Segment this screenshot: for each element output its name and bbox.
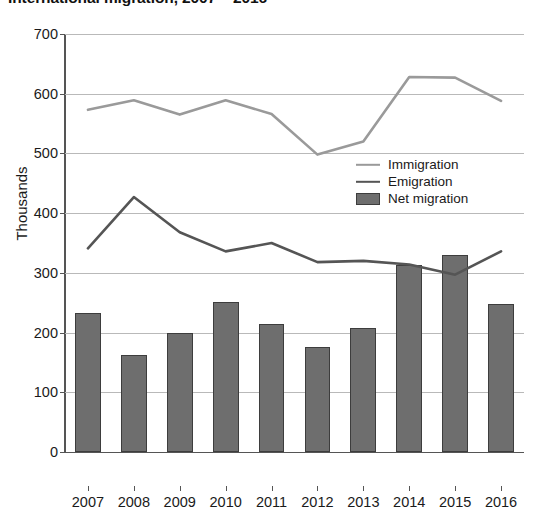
legend-label: Immigration: [388, 158, 459, 172]
x-tick-mark: [134, 486, 135, 491]
line-emigration: [88, 197, 501, 275]
y-tick-label: 500: [34, 145, 58, 161]
page-title: International migration, 2007 – 2016: [8, 0, 267, 7]
x-tick-label-2014: 2014: [393, 494, 425, 510]
x-tick-mark: [455, 486, 456, 491]
x-tick-mark: [272, 486, 273, 491]
x-tick-label-2016: 2016: [485, 494, 517, 510]
x-tick-mark: [363, 486, 364, 491]
y-tick-label: 100: [34, 384, 58, 400]
x-tick-label-2010: 2010: [210, 494, 242, 510]
x-tick-label-2007: 2007: [72, 494, 104, 510]
x-tick-label-2008: 2008: [118, 494, 150, 510]
line-swatch-icon: [356, 158, 380, 171]
x-tick-mark: [88, 486, 89, 491]
y-tick-label: 700: [34, 26, 58, 42]
x-tick-label-2013: 2013: [347, 494, 379, 510]
x-tick-label-2009: 2009: [164, 494, 196, 510]
y-tick-label: 0: [50, 444, 58, 460]
chart-legend: ImmigrationEmigrationNet migration: [356, 156, 468, 207]
y-tick-label: 300: [34, 265, 58, 281]
x-tick-mark: [226, 486, 227, 491]
y-tick-label: 600: [34, 86, 58, 102]
y-tick-label: 200: [34, 325, 58, 341]
x-tick-mark: [409, 486, 410, 491]
legend-item-net-migration[interactable]: Net migration: [356, 190, 468, 207]
x-tick-mark: [180, 486, 181, 491]
line-immigration: [88, 77, 501, 155]
plot-area: 0100200300400500600700 20072008200920102…: [65, 34, 524, 452]
box-swatch-icon: [356, 193, 380, 205]
legend-label: Net migration: [388, 192, 468, 206]
x-tick-mark: [317, 486, 318, 491]
legend-item-immigration[interactable]: Immigration: [356, 156, 468, 173]
legend-label: Emigration: [388, 175, 453, 189]
x-tick-label-2011: 2011: [256, 494, 287, 510]
x-tick-label-2012: 2012: [301, 494, 333, 510]
line-swatch-icon: [356, 175, 380, 188]
y-axis-title: Thousands: [13, 144, 30, 264]
y-tick-mark: [60, 452, 65, 453]
lines-layer: [65, 34, 524, 452]
x-tick-mark: [501, 486, 502, 491]
legend-item-emigration[interactable]: Emigration: [356, 173, 468, 190]
x-tick-label-2015: 2015: [439, 494, 471, 510]
y-tick-label: 400: [34, 205, 58, 221]
